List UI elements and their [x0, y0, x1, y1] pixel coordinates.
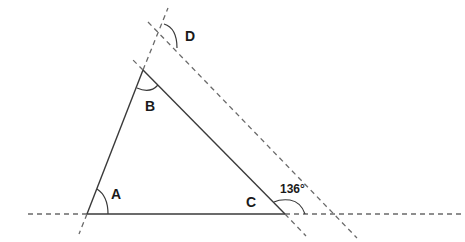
AB-lower-extension [79, 214, 87, 234]
angle-A-arc [97, 189, 108, 214]
BC-upper-extension [131, 58, 143, 70]
label-A: A [111, 186, 121, 202]
angle-B-arc [137, 85, 158, 90]
label-D: D [185, 28, 195, 44]
label-C: C [246, 194, 256, 210]
label-angle-136: 136° [280, 182, 305, 196]
AB-upper-extension [143, 8, 168, 70]
label-B: B [145, 98, 155, 114]
BC-lower-extension [285, 214, 306, 236]
geometry-diagram: A B C D 136° [0, 0, 465, 242]
